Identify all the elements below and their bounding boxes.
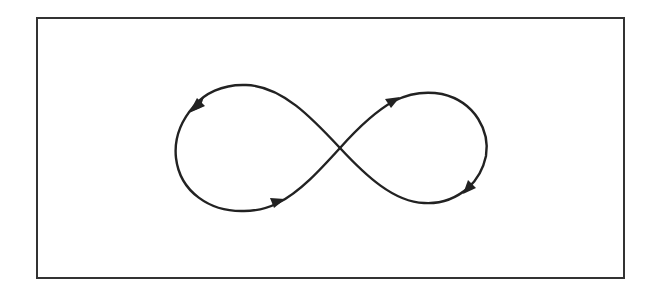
right-loop-outer — [394, 93, 487, 188]
left-loop-outer — [176, 106, 278, 211]
diagram-canvas — [0, 0, 664, 299]
left-loop-upper — [194, 85, 340, 148]
frame-border — [37, 18, 624, 278]
right-loop-upper — [340, 101, 394, 148]
right-loop-lower — [340, 148, 468, 203]
left-loop-lower — [278, 148, 340, 203]
direction-arrows — [189, 97, 476, 208]
infinity-curve — [176, 85, 487, 211]
